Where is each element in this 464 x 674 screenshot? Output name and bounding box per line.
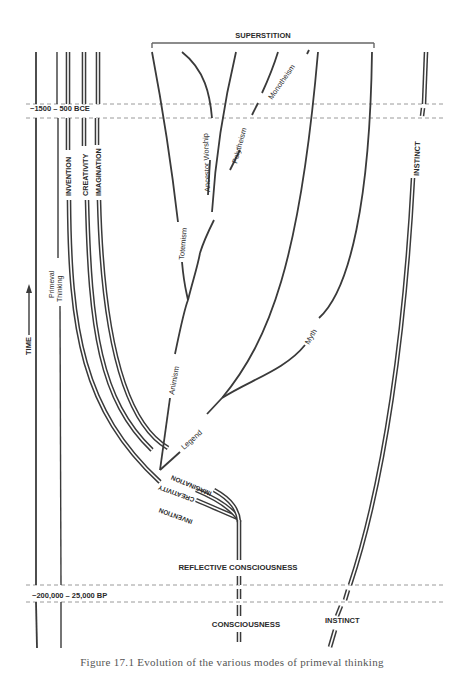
instinct-upper-label: INSTINCT [412, 141, 422, 176]
totemism-label: Totemism [177, 227, 189, 260]
instinct-line [330, 52, 426, 647]
creativity-column-label: CREATIVITY [81, 154, 90, 196]
figure-caption: Figure 17.1 Evolution of the various mod… [0, 656, 464, 668]
primeval-label-line1: Primeval [48, 270, 55, 298]
invention-column-label: INVENTION [64, 157, 73, 196]
creativity-column [84, 52, 238, 518]
primeval-label-line2: Thinking [56, 275, 64, 302]
time-axis-line [36, 602, 37, 648]
superstition-bracket [152, 43, 374, 48]
invention-curve-label: INVENTION [157, 507, 193, 526]
imagination-column [97, 52, 239, 522]
time-band-upper-label: ~1500 – 500 BCE [30, 104, 90, 113]
polytheism-label: Polytheism [230, 127, 248, 165]
instinct-lower-label: INSTINCT [325, 616, 360, 625]
time-band-lower-label: ~200,000 – 25,000 BP [32, 591, 107, 600]
time-axis-label: TIME [24, 337, 33, 355]
legend-label: Legend [179, 428, 204, 451]
reflective-consciousness-label: REFLECTIVE CONSCIOUSNESS [178, 563, 297, 572]
monotheism-label: Monotheism [266, 63, 297, 102]
myth-label: Myth [303, 327, 319, 346]
evolution-diagram: SUPERSTITION ~1500 – 500 BCE ~200,000 – … [0, 0, 464, 674]
superstition-label: SUPERSTITION [235, 31, 290, 40]
ancestor-worship-label: Ancestor Worship [201, 133, 212, 192]
up-arrow-icon [26, 284, 32, 335]
consciousness-label: CONSCIOUSNESS [212, 620, 280, 629]
animism-label: Animism [167, 365, 181, 395]
imagination-column-label: IMAGINATION [94, 148, 103, 196]
